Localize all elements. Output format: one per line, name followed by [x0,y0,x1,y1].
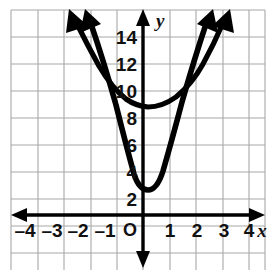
y-tick-label: 10 [116,81,137,102]
coordinate-graph: 14 12 10 8 6 4 2 –4 –3 –2 –1 1 2 3 4 O y… [0,0,276,278]
x-tick-label: –2 [67,220,88,241]
origin-label: O [123,220,137,240]
y-axis-top-arrow-icon [136,9,150,26]
y-tick-label: 8 [126,108,137,129]
y-tick-label: 14 [116,27,138,48]
x-tick-label: 1 [165,220,176,241]
y-tick-label: 6 [126,135,137,156]
y-tick-label: 4 [126,162,137,183]
curve-narrow-parabola [80,9,218,190]
y-tick-label: 12 [116,54,137,75]
graph-svg: 14 12 10 8 6 4 2 –4 –3 –2 –1 1 2 3 4 O y… [0,0,276,278]
x-tick-label: –4 [14,220,36,241]
x-tick-label: –3 [41,220,62,241]
x-axis-label: x [256,220,267,241]
x-tick-label: 4 [244,220,255,241]
x-tick-label: 3 [219,220,230,241]
y-axis [136,9,150,268]
y-axis-label: y [154,10,165,31]
x-tick-label: –1 [94,220,116,241]
y-tick-label: 2 [126,189,137,210]
y-axis-bottom-arrow-icon [136,251,150,268]
x-tick-label: 2 [192,220,203,241]
narrow-parabola-right-arrow-icon [197,9,218,33]
